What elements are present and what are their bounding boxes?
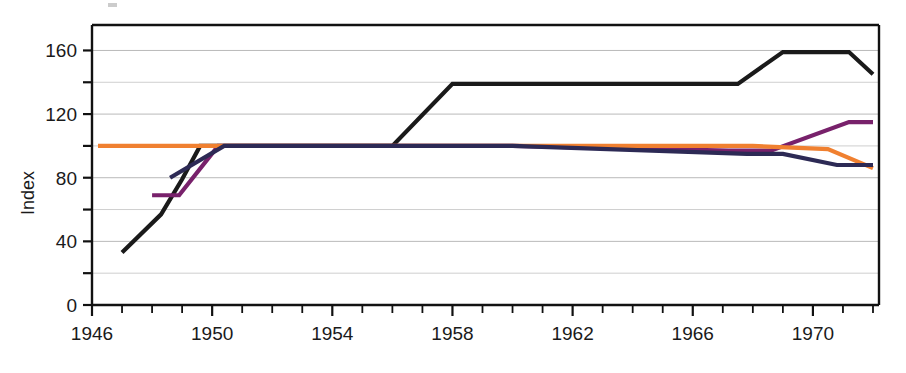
x-tick-label: 1958 [431,323,473,344]
chart-container: 1946195019541958196219661970 04080120160… [0,0,906,373]
y-tick-label: 160 [45,40,77,61]
line-chart: 1946195019541958196219661970 04080120160… [0,0,906,373]
tick-marks-group [83,50,873,316]
y-tick-label: 0 [66,295,77,316]
y-axis-tick-labels: 04080120160 [45,40,77,316]
series-line-purple-series [152,122,873,195]
x-tick-label: 1946 [71,323,113,344]
x-tick-label: 1954 [311,323,354,344]
x-tick-label: 1950 [191,323,233,344]
x-tick-label: 1966 [672,323,714,344]
y-axis-title: Index [18,171,38,215]
y-tick-label: 80 [56,168,77,189]
x-tick-label: 1962 [551,323,593,344]
top-edge-artifact [108,3,117,7]
x-tick-label: 1970 [792,323,834,344]
y-tick-label: 120 [45,104,77,125]
y-tick-label: 40 [56,231,77,252]
x-axis-tick-labels: 1946195019541958196219661970 [71,323,834,344]
